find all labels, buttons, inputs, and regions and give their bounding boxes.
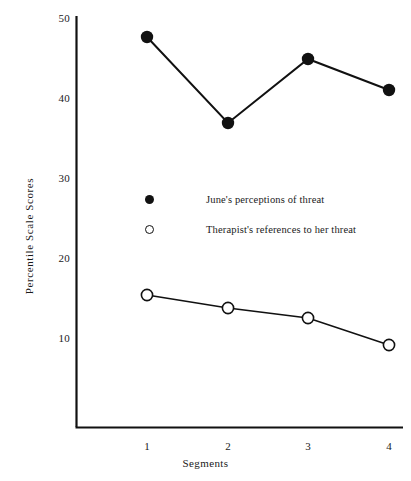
series-therapist-point [383, 339, 394, 350]
x-tick-label-3: 3 [298, 441, 318, 452]
chart-plot-area [0, 0, 411, 481]
legend-label-therapist: Therapist's references to her threat [206, 224, 356, 235]
y-axis-title: Percentile Scale Scores [23, 161, 35, 311]
x-axis-title: Segments [0, 457, 411, 469]
x-tick-label-1: 1 [137, 441, 157, 452]
filled-circle-icon [140, 195, 158, 204]
series-therapist-point [141, 289, 152, 300]
x-tick-label-2: 2 [218, 441, 238, 452]
series-june-point [302, 53, 314, 65]
series-june-point [141, 31, 153, 43]
y-tick-label-50: 50 [40, 13, 70, 24]
y-tick-label-30: 30 [40, 173, 70, 184]
legend-entry-therapist: Therapist's references to her threat [140, 222, 356, 236]
series-june-line [147, 37, 389, 123]
series-therapist-point [222, 302, 233, 313]
x-tick-label-4: 4 [379, 441, 399, 452]
y-tick-label-10: 10 [40, 333, 70, 344]
y-tick-label-20: 20 [40, 253, 70, 264]
open-circle-icon [140, 225, 158, 234]
legend-entry-june: June's perceptions of threat [140, 192, 324, 206]
series-therapist-line [147, 295, 389, 345]
series-june-point [383, 84, 395, 96]
series-therapist-point [302, 312, 313, 323]
legend-label-june: June's perceptions of threat [206, 194, 324, 205]
chart-figure: 50 40 30 20 10 1 2 3 4 Percentile Scale … [0, 0, 411, 481]
series-june-point [222, 117, 234, 129]
y-tick-label-40: 40 [40, 93, 70, 104]
